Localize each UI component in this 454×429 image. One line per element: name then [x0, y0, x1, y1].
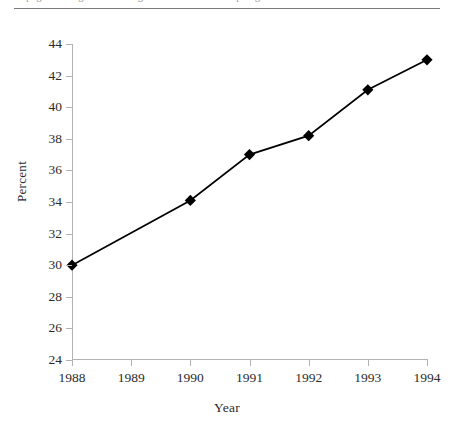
- y-axis-tick-label: 28: [49, 289, 63, 305]
- data-line: [72, 60, 427, 265]
- x-axis-tick-label: 1991: [236, 370, 263, 386]
- x-axis-tick: [427, 360, 428, 366]
- x-axis-tick-label: 1989: [118, 370, 145, 386]
- y-axis-tick: [66, 328, 72, 329]
- y-axis-tick-label: 38: [49, 131, 63, 147]
- y-axis-tick-label: 36: [49, 162, 63, 178]
- x-axis-title: Year: [0, 400, 454, 416]
- x-axis-tick-label: 1993: [354, 370, 381, 386]
- y-axis-tick-label: 30: [49, 257, 63, 273]
- x-axis-tick: [250, 360, 251, 366]
- x-axis-tick: [368, 360, 369, 366]
- y-axis-tick: [66, 107, 72, 108]
- x-axis-tick-label: 1988: [59, 370, 86, 386]
- y-axis-tick: [66, 44, 72, 45]
- y-axis-tick: [66, 139, 72, 140]
- series-line: [72, 44, 428, 361]
- y-axis-tick-label: 24: [49, 352, 63, 368]
- y-axis-tick: [66, 234, 72, 235]
- y-axis-tick: [66, 170, 72, 171]
- clipped-caption-artifact: the page heading above the figure is cut…: [0, 0, 454, 7]
- x-axis-tick-label: 1990: [177, 370, 204, 386]
- x-axis-tick: [72, 360, 73, 366]
- x-axis-tick: [309, 360, 310, 366]
- y-axis-tick-label: 42: [49, 68, 63, 84]
- y-axis-tick: [66, 297, 72, 298]
- y-axis-tick: [66, 202, 72, 203]
- y-axis-tick-label: 34: [49, 194, 63, 210]
- y-axis-tick: [66, 265, 72, 266]
- x-axis-tick: [131, 360, 132, 366]
- line-chart-figure: 2426283032343638404244198819891990199119…: [0, 12, 454, 429]
- y-axis-tick-label: 32: [49, 226, 63, 242]
- y-axis-tick: [66, 76, 72, 77]
- y-axis-title: Percent: [14, 161, 30, 202]
- data-point-marker: [421, 54, 432, 65]
- y-axis-tick-label: 44: [49, 36, 63, 52]
- y-axis-tick-label: 26: [49, 320, 63, 336]
- x-axis-tick-label: 1992: [295, 370, 322, 386]
- plot-area: 2426283032343638404244198819891990199119…: [72, 44, 427, 360]
- x-axis-tick-label: 1994: [414, 370, 441, 386]
- clipped-caption-text: the page heading above the figure is cut…: [10, 0, 448, 3]
- horizontal-rule: [14, 8, 440, 9]
- y-axis-tick-label: 40: [49, 99, 63, 115]
- x-axis-tick: [190, 360, 191, 366]
